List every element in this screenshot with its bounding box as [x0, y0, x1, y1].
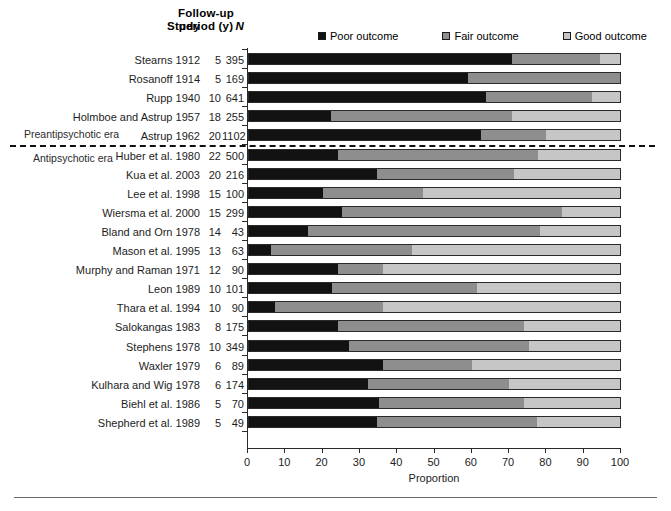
bar-segment-good [592, 92, 620, 102]
table-row: Kua et al. 200320216 [0, 167, 671, 186]
stacked-bar [248, 263, 621, 275]
y-axis-tick [242, 144, 247, 145]
row-value-followup-period: 5 [203, 73, 221, 85]
x-axis-tick [434, 448, 435, 453]
bar-segment-poor [249, 341, 349, 351]
row-value-n: 1102 [222, 130, 244, 142]
table-row: Shepherd et al. 1989549 [0, 415, 671, 434]
row-label-study: Holmboe and Astrup 1957 [40, 111, 200, 123]
row-value-n: 395 [222, 54, 244, 66]
bar-segment-good [383, 264, 620, 274]
row-label-study: Kua et al. 2003 [40, 169, 200, 181]
era-divider-dashed-line [10, 145, 655, 147]
x-axis-tick-label: 100 [605, 456, 635, 468]
y-axis-tick [242, 335, 247, 336]
square-filled-mid-icon [442, 32, 450, 40]
bar-segment-poor [249, 360, 383, 370]
bar-segment-fair [271, 245, 412, 255]
bar-segment-poor [249, 207, 342, 217]
row-value-n: 70 [222, 398, 244, 410]
x-axis-tick [545, 448, 546, 453]
row-value-followup-period: 8 [203, 321, 221, 333]
table-row: Stearns 19125395 [0, 52, 671, 71]
row-label-study: Stephens 1978 [40, 341, 200, 353]
table-row: Wiersma et al. 200015299 [0, 205, 671, 224]
table-row: Waxler 1979689 [0, 358, 671, 377]
row-value-n: 100 [222, 188, 244, 200]
bar-segment-poor [249, 73, 468, 83]
y-axis-tick [242, 374, 247, 375]
bar-segment-poor [249, 150, 338, 160]
y-axis-tick [242, 68, 247, 69]
table-row: Rosanoff 19145169 [0, 71, 671, 90]
table-row: Lee et al. 199815100 [0, 186, 671, 205]
row-value-followup-period: 6 [203, 379, 221, 391]
y-axis-tick [242, 297, 247, 298]
bar-segment-fair [275, 302, 383, 312]
table-row: Biehl et al. 1986570 [0, 396, 671, 415]
x-axis-tick-label: 90 [568, 456, 598, 468]
stacked-bar [248, 187, 621, 199]
row-label-study: Rosanoff 1914 [40, 73, 200, 85]
row-label-study: Thara et al. 1994 [40, 302, 200, 314]
table-row: Rupp 194010641 [0, 90, 671, 109]
row-value-followup-period: 22 [203, 150, 221, 162]
table-row: Stephens 197810349 [0, 339, 671, 358]
row-value-followup-period: 15 [203, 207, 221, 219]
bar-segment-poor [249, 111, 331, 121]
bar-segment-fair [338, 150, 538, 160]
stacked-bar [248, 282, 621, 294]
legend-label-poor: Poor outcome [330, 30, 398, 42]
table-row: Holmboe and Astrup 195718255 [0, 109, 671, 128]
row-value-n: 101 [222, 283, 244, 295]
bar-segment-good [538, 150, 620, 160]
bar-segment-good [412, 245, 620, 255]
row-value-followup-period: 10 [203, 341, 221, 353]
row-value-n: 89 [222, 360, 244, 372]
x-axis-tick-label: 30 [344, 456, 374, 468]
row-value-n: 349 [222, 341, 244, 353]
stacked-bar [248, 320, 621, 332]
x-axis-tick-label: 60 [456, 456, 486, 468]
bar-segment-fair [486, 92, 592, 102]
x-axis-tick-label: 40 [381, 456, 411, 468]
bar-segment-poor [249, 169, 377, 179]
bar-segment-good [524, 321, 620, 331]
row-value-n: 169 [222, 73, 244, 85]
bar-segment-fair [332, 283, 477, 293]
bar-segment-fair [338, 264, 383, 274]
legend-label-fair: Fair outcome [454, 30, 518, 42]
table-row: Thara et al. 19941090 [0, 300, 671, 319]
x-axis-tick-label: 10 [269, 456, 299, 468]
row-label-study: Waxler 1979 [40, 360, 200, 372]
x-axis-tick-label: 80 [530, 456, 560, 468]
bar-segment-good [383, 302, 620, 312]
row-value-n: 299 [222, 207, 244, 219]
table-row: Kulhara and Wig 19786174 [0, 377, 671, 396]
row-label-study: Kulhara and Wig 1978 [40, 379, 200, 391]
row-label-study: Murphy and Raman 1971 [40, 264, 200, 276]
row-value-followup-period: 5 [203, 398, 221, 410]
row-value-followup-period: 20 [203, 169, 221, 181]
x-axis-tick [583, 448, 584, 453]
y-axis-tick [242, 164, 247, 165]
bar-segment-fair [383, 360, 472, 370]
row-label-study: Wiersma et al. 2000 [40, 207, 200, 219]
stacked-bar [248, 340, 621, 352]
row-label-study: Lee et al. 1998 [40, 188, 200, 200]
annotation-preantipsychotic-era: Preantipsychotic era [24, 128, 119, 140]
row-value-followup-period: 15 [203, 188, 221, 200]
y-axis-tick [242, 183, 247, 184]
x-axis-tick [247, 448, 248, 453]
row-value-n: 90 [222, 302, 244, 314]
table-row: Mason et al. 19951363 [0, 243, 671, 262]
row-value-followup-period: 10 [203, 283, 221, 295]
row-value-n: 63 [222, 245, 244, 257]
y-axis-tick [242, 412, 247, 413]
bar-segment-poor [249, 130, 481, 140]
table-row: Murphy and Raman 19711290 [0, 262, 671, 281]
bar-segment-poor [249, 245, 271, 255]
bar-segment-good [524, 398, 620, 408]
table-row: Bland and Orn 19781443 [0, 224, 671, 243]
stacked-bar [248, 110, 621, 122]
